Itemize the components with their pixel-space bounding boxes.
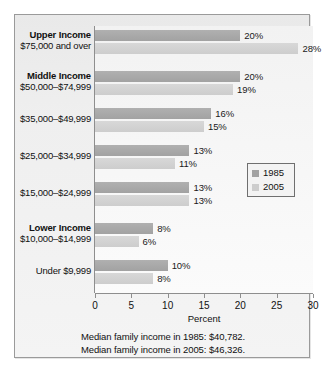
chart-figure: 10%8%8%6%13%13%13%11%16%15%20%19%20%28% … (14, 14, 310, 358)
category-label-4: $25,000–$34,999 (0, 150, 95, 162)
category-label-5: $15,000–$24,999 (0, 187, 95, 199)
note-median-2005: Median family income in 2005: $46,326. (15, 344, 311, 357)
bar-1985-5 (95, 182, 189, 193)
legend-item-1985: 1985 (252, 167, 290, 179)
bar-value-1985-6: 8% (157, 223, 171, 234)
bar-1985-3 (95, 108, 211, 119)
x-tick-label-25: 25 (271, 300, 282, 311)
legend-swatch-1985 (252, 170, 259, 177)
x-tick-label-20: 20 (235, 300, 246, 311)
category-range-2: $50,000–$74,999 (0, 81, 91, 93)
category-range-4: $25,000–$34,999 (0, 150, 91, 162)
bar-1985-1 (95, 30, 240, 41)
bar-2005-5 (95, 195, 189, 206)
chart-notes: Median family income in 1985: $40,782. M… (15, 331, 311, 356)
bar-group: 16%15% (95, 108, 313, 132)
bar-value-2005-7: 8% (157, 273, 171, 284)
x-tick-label-0: 0 (92, 300, 98, 311)
legend-label-2005: 2005 (263, 182, 284, 192)
bar-1985-6 (95, 223, 153, 234)
bar-value-1985-5: 13% (193, 182, 212, 193)
legend-label-1985: 1985 (263, 168, 284, 178)
bar-value-1985-3: 16% (215, 108, 234, 119)
bar-value-2005-2: 19% (237, 84, 256, 95)
legend-swatch-2005 (252, 184, 259, 191)
category-label-2: Middle Income$50,000–$74,999 (0, 70, 95, 93)
x-axis: Percent 051015202530 (95, 293, 313, 334)
category-range-3: $35,000–$49,999 (0, 113, 91, 125)
x-tick-label-30: 30 (307, 300, 318, 311)
bar-value-2005-3: 15% (208, 121, 227, 132)
x-tick-label-5: 5 (129, 300, 135, 311)
bar-2005-2 (95, 84, 233, 95)
category-range-7: Under $9,999 (0, 265, 91, 277)
category-range-5: $15,000–$24,999 (0, 187, 91, 199)
chart-legend: 1985 2005 (247, 163, 295, 197)
note-median-1985: Median family income in 1985: $40,782. (15, 331, 311, 344)
bar-group: 20%28% (95, 30, 313, 54)
legend-item-2005: 2005 (252, 181, 290, 193)
bar-1985-4 (95, 145, 189, 156)
category-heading-1: Upper Income (0, 29, 91, 40)
category-label-6: Lower Income$10,000–$14,999 (0, 222, 95, 245)
bar-2005-6 (95, 236, 139, 247)
bar-value-1985-2: 20% (244, 71, 263, 82)
bar-group: 10%8% (95, 260, 313, 284)
bar-value-2005-4: 11% (179, 158, 197, 169)
x-tick-label-15: 15 (198, 300, 209, 311)
bar-2005-4 (95, 158, 175, 169)
x-tick-10 (168, 294, 169, 298)
x-axis-title: Percent (95, 313, 313, 324)
x-tick-0 (95, 294, 96, 298)
bar-2005-7 (95, 273, 153, 284)
x-tick-15 (204, 294, 205, 298)
bar-group: 8%6% (95, 223, 313, 247)
bar-2005-3 (95, 121, 204, 132)
category-heading-6: Lower Income (0, 222, 91, 233)
category-range-1: $75,000 and over (0, 40, 91, 52)
category-label-1: Upper Income$75,000 and over (0, 29, 95, 52)
bar-1985-2 (95, 71, 240, 82)
x-tick-label-10: 10 (162, 300, 173, 311)
category-label-3: $35,000–$49,999 (0, 113, 95, 125)
bar-value-2005-5: 13% (193, 195, 212, 206)
bar-value-2005-1: 28% (302, 43, 321, 54)
bar-group: 20%19% (95, 71, 313, 95)
bar-value-2005-6: 6% (143, 236, 157, 247)
bar-2005-1 (95, 43, 298, 54)
category-range-6: $10,000–$14,999 (0, 233, 91, 245)
x-tick-30 (313, 294, 314, 298)
category-label-column: Upper Income$75,000 and overMiddle Incom… (0, 26, 95, 293)
plot-area: 10%8%8%6%13%13%13%11%16%15%20%19%20%28% … (94, 26, 313, 293)
x-tick-5 (131, 294, 132, 298)
bar-value-1985-4: 13% (193, 145, 212, 156)
x-tick-25 (277, 294, 278, 298)
x-tick-20 (240, 294, 241, 298)
bar-1985-7 (95, 260, 168, 271)
bar-value-1985-1: 20% (244, 30, 263, 41)
bar-value-1985-7: 10% (172, 260, 191, 271)
category-heading-2: Middle Income (0, 70, 91, 81)
category-label-7: Under $9,999 (0, 265, 95, 277)
